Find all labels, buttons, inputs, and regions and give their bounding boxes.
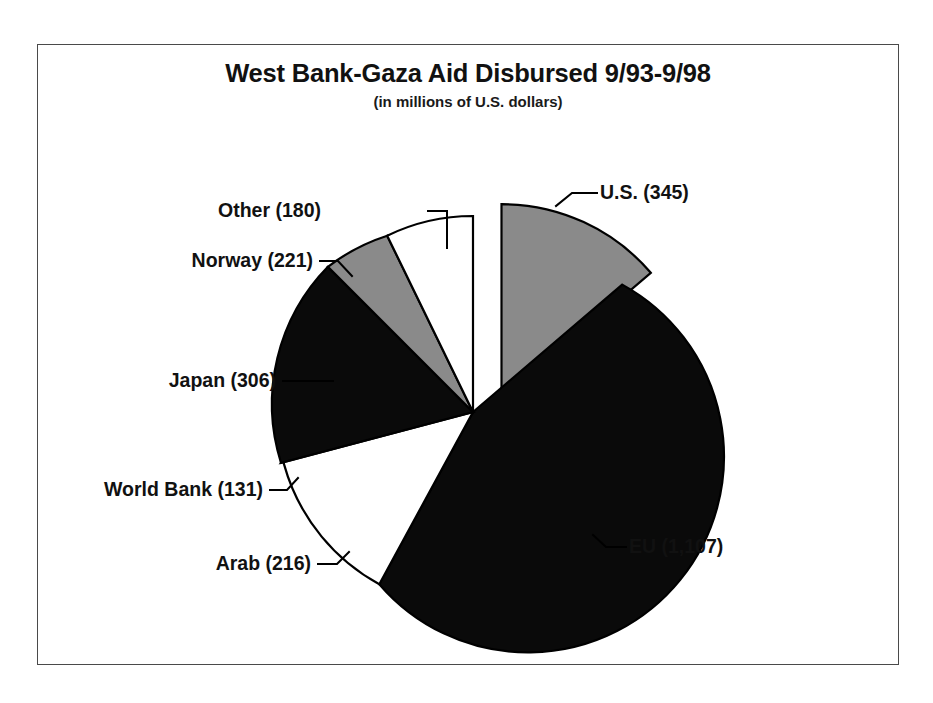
chart-frame: West Bank-Gaza Aid Disbursed 9/93-9/98 (… xyxy=(37,44,899,665)
slice-label-norway: Norway (221) xyxy=(192,251,313,271)
slice-label-other: Other (180) xyxy=(218,201,321,221)
slice-label-us: U.S. (345) xyxy=(600,183,689,203)
chart-subtitle: (in millions of U.S. dollars) xyxy=(38,93,898,110)
chart-title: West Bank-Gaza Aid Disbursed 9/93-9/98 xyxy=(38,59,898,88)
slice-label-eu: EU (1,107) xyxy=(629,537,723,557)
slice-label-japan: Japan (306) xyxy=(169,371,276,391)
slice-label-world-bank: World Bank (131) xyxy=(104,480,263,500)
slice-label-arab: Arab (216) xyxy=(216,554,311,574)
